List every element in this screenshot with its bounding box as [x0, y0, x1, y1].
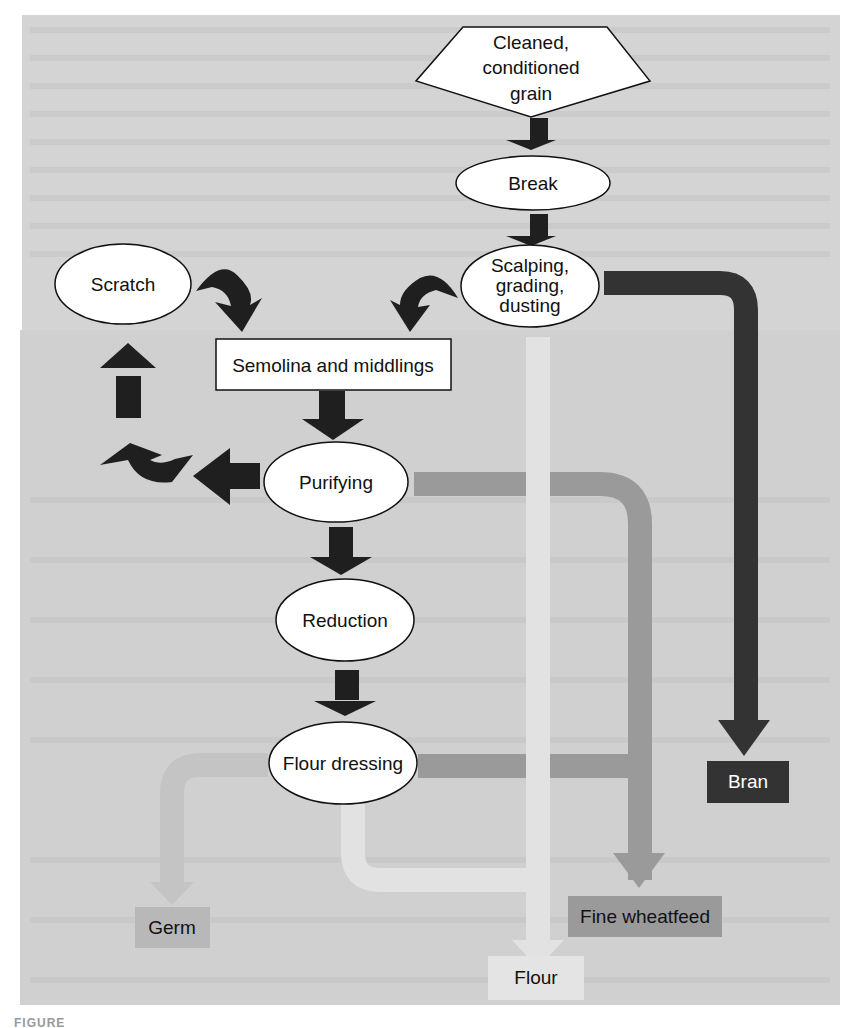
pipe-crossing — [526, 753, 550, 779]
figure-caption: FIGURE — [14, 1016, 65, 1028]
break-node-label: Break — [508, 173, 558, 194]
input-node-line3: grain — [510, 83, 552, 104]
flour-dressing-node-label: Flour dressing — [283, 753, 403, 774]
scalping-node-line2: grading, — [496, 275, 565, 296]
germ-output-label: Germ — [148, 917, 196, 938]
input-node-line2: conditioned — [482, 57, 579, 78]
pipe-crossing — [526, 471, 550, 497]
scalping-node-line1: Scalping, — [491, 255, 569, 276]
diagram-canvas: Cleaned, conditioned grain Break Scalpin… — [0, 0, 868, 1028]
reduction-node-label: Reduction — [302, 610, 388, 631]
purifying-node-label: Purifying — [299, 472, 373, 493]
flour-output-label: Flour — [514, 967, 558, 988]
fine-wheatfeed-output-label: Fine wheatfeed — [580, 906, 710, 927]
scratch-node-label: Scratch — [91, 274, 155, 295]
input-node-line1: Cleaned, — [493, 32, 569, 53]
semolina-node-label: Semolina and middlings — [232, 355, 434, 376]
bran-output-label: Bran — [728, 771, 768, 792]
scalping-node-line3: dusting — [499, 295, 560, 316]
